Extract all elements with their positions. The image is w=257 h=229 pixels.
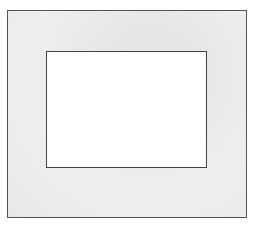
inner-window [46,51,207,168]
